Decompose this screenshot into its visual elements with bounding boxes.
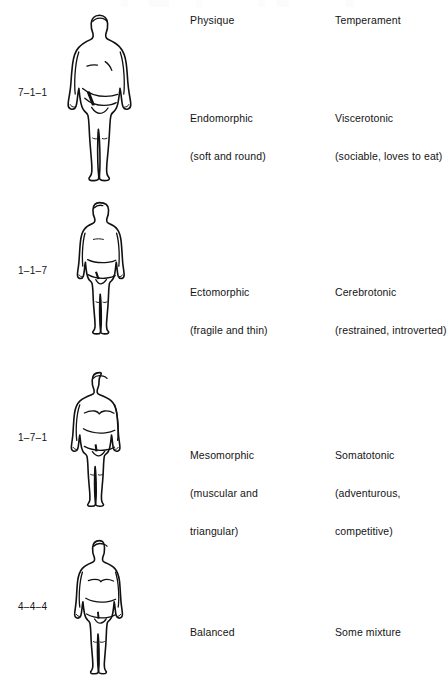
temperament-subtitle-2: competitive) xyxy=(335,525,401,538)
temperament-cell-mesomorph: Somatotonic (adventurous, competitive) xyxy=(335,424,401,550)
temperament-subtitle: (restrained, introverted) xyxy=(335,324,447,337)
column-header-temperament: Temperament xyxy=(335,14,401,27)
physique-subtitle: (fragile and thin) xyxy=(190,324,268,337)
somatotype-code-mesomorph: 1–7–1 xyxy=(18,432,47,444)
temperament-title: Some mixture xyxy=(335,626,401,639)
scan-artifact xyxy=(0,0,438,7)
ectomorph-figure xyxy=(70,200,130,348)
temperament-cell-endomorph: Viscerotonic (sociable, loves to eat) xyxy=(335,87,442,175)
temperament-title: Somatotonic xyxy=(335,449,401,462)
physique-cell-ectomorph: Ectomorphic (fragile and thin) xyxy=(190,261,268,349)
temperament-cell-balanced: Some mixture xyxy=(335,601,401,651)
mesomorph-figure xyxy=(66,370,134,516)
physique-subtitle: (muscular and xyxy=(190,487,258,500)
temperament-title: Viscerotonic xyxy=(335,112,442,125)
temperament-title: Cerebrotonic xyxy=(335,286,447,299)
column-header-physique: Physique xyxy=(190,14,234,27)
physique-subtitle: (soft and round) xyxy=(190,150,266,163)
physique-cell-endomorph: Endomorphic (soft and round) xyxy=(190,87,266,175)
physique-subtitle-2: triangular) xyxy=(190,525,258,538)
somatotype-code-endomorph: 7–1–1 xyxy=(18,87,47,99)
physique-title: Endomorphic xyxy=(190,112,266,125)
physique-title: Ectomorphic xyxy=(190,286,268,299)
temperament-cell-ectomorph: Cerebrotonic (restrained, introverted) xyxy=(335,261,447,349)
temperament-subtitle: (adventurous, xyxy=(335,487,401,500)
physique-title: Mesomorphic xyxy=(190,449,258,462)
physique-cell-balanced: Balanced xyxy=(190,601,235,651)
physique-cell-mesomorph: Mesomorphic (muscular and triangular) xyxy=(190,424,258,550)
somatotype-code-balanced: 4–4–4 xyxy=(18,601,47,613)
balanced-figure xyxy=(68,538,132,688)
physique-title: Balanced xyxy=(190,626,235,639)
temperament-subtitle: (sociable, loves to eat) xyxy=(335,150,442,163)
endomorph-figure xyxy=(62,12,138,184)
somatotype-code-ectomorph: 1–1–7 xyxy=(18,265,47,277)
